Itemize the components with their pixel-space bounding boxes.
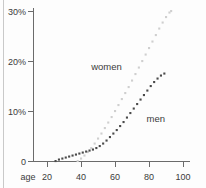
data-point-women	[83, 155, 85, 157]
data-point-men	[99, 145, 101, 147]
data-point-men	[106, 140, 108, 142]
data-point-men	[153, 81, 155, 83]
data-point-men	[163, 73, 165, 75]
x-tick-label: 100	[175, 172, 190, 182]
data-point-men	[89, 150, 91, 152]
data-point-men	[92, 149, 94, 151]
data-point-men	[78, 153, 80, 155]
data-point-men	[85, 151, 87, 153]
data-point-men	[133, 108, 135, 110]
data-point-women	[100, 133, 102, 135]
data-point-women	[138, 67, 140, 69]
data-point-women	[141, 60, 143, 62]
data-point-men	[143, 94, 145, 96]
data-point-women	[77, 160, 79, 162]
data-point-men	[82, 152, 84, 154]
age-prevalence-scatter-chart: 010%20%30% 20406080100 age womenmen	[0, 0, 206, 188]
y-tick-label: 10%	[8, 107, 26, 117]
data-point-men	[102, 143, 104, 145]
x-tick-label: 40	[76, 172, 86, 182]
data-point-men	[58, 159, 60, 161]
data-point-women	[170, 10, 172, 12]
data-point-men	[126, 117, 128, 119]
data-point-women	[121, 98, 123, 100]
data-point-women	[145, 54, 147, 56]
data-point-women	[111, 116, 113, 118]
chart-container: 010%20%30% 20406080100 age womenmen	[0, 0, 206, 188]
data-point-men	[109, 136, 111, 138]
data-point-men	[160, 75, 162, 77]
data-point-women	[94, 143, 96, 145]
data-point-women	[114, 110, 116, 112]
data-point-men	[150, 85, 152, 87]
data-point-women	[165, 16, 167, 18]
data-point-men	[112, 133, 114, 135]
data-point-men	[61, 158, 63, 160]
data-point-women	[155, 34, 157, 36]
data-point-men	[136, 103, 138, 105]
data-point-men	[95, 147, 97, 149]
x-tick-label: 80	[144, 172, 154, 182]
data-point-women	[158, 28, 160, 30]
annotation-women: women	[90, 61, 122, 72]
data-point-women	[124, 92, 126, 94]
data-point-women	[151, 41, 153, 43]
data-point-men	[129, 112, 131, 114]
y-tick-label: 30%	[8, 7, 26, 17]
data-point-women	[80, 158, 82, 160]
data-point-women	[104, 127, 106, 129]
data-point-women	[148, 47, 150, 49]
y-tick-label: 20%	[8, 57, 26, 67]
data-point-women	[97, 138, 99, 140]
series-women-points	[77, 10, 173, 162]
data-point-women	[107, 122, 109, 124]
x-axis-label: age	[20, 172, 35, 182]
x-axis-ticks: 20406080100	[42, 162, 191, 183]
data-point-men	[65, 157, 67, 159]
data-point-men	[68, 156, 70, 158]
data-point-men	[55, 160, 57, 162]
data-point-women	[134, 73, 136, 75]
data-point-men	[75, 154, 77, 156]
data-point-women	[117, 104, 119, 106]
annotation-men: men	[147, 113, 165, 124]
data-point-men	[123, 121, 125, 123]
series-annotations: womenmen	[90, 61, 165, 124]
x-tick-label: 20	[42, 172, 52, 182]
data-point-men	[119, 125, 121, 127]
y-tick-label: 0	[21, 157, 26, 167]
data-point-men	[72, 155, 74, 157]
y-axis-ticks: 010%20%30%	[8, 7, 34, 167]
data-point-women	[131, 80, 133, 82]
data-point-women	[162, 22, 164, 24]
x-tick-label: 60	[110, 172, 120, 182]
data-point-men	[146, 90, 148, 92]
data-point-men	[116, 129, 118, 131]
data-point-men	[140, 99, 142, 101]
data-point-women	[128, 86, 130, 88]
data-point-men	[157, 78, 159, 80]
